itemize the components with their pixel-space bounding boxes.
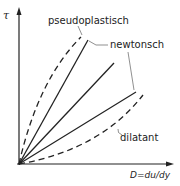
dilatant-label: dilatant [120,132,158,143]
pseudoplastic-leader [78,26,82,35]
pseudoplastic-label: pseudoplastisch [48,15,129,26]
x-axis-arrow-icon [166,162,174,167]
flow-curve-diagram: τ pseudoplastisch newtonsch dilatant D=d… [0,0,180,186]
x-axis-label: D=du/dy [130,170,171,180]
newtonian-line-shallow [19,92,136,164]
newtonian-label: newtonsch [110,39,164,50]
y-axis-label: τ [3,9,10,22]
curves [19,37,143,164]
newtonian-leader-top [89,41,108,45]
newtonian-leader-bottom [128,52,134,90]
y-axis-arrow-icon [17,7,22,15]
